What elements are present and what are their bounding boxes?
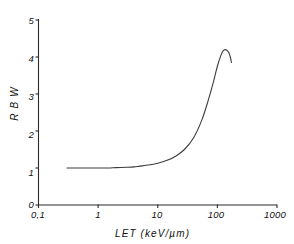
x-tick-label-0p1: 0,1 [24,209,52,220]
x-tick-label-1000: 1000 [258,209,292,220]
y-axis-title: R B W [9,82,20,126]
chart-figure: 5 4 3 2 1 0 0,1 1 10 100 1000 R B W LET … [0,0,294,244]
data-series-line [67,50,231,168]
y-tick-label-4: 4 [20,53,34,64]
y-tick-label-1: 1 [20,167,34,178]
x-axis-title: LET (keV/µm) [115,228,190,239]
y-tick-label-5: 5 [20,15,34,26]
x-tick-label-1: 1 [86,209,110,220]
y-tick-label-3: 3 [20,91,34,102]
chart-plot-area [0,0,294,244]
x-tick-label-100: 100 [201,209,231,220]
x-tick-label-10: 10 [143,209,171,220]
y-tick-label-2: 2 [20,129,34,140]
